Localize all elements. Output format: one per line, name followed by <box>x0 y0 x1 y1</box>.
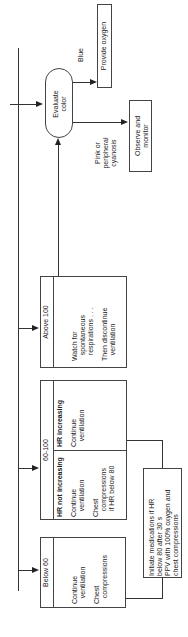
hr-above-100-box: Above 100 Watch for spontaneous respirat… <box>40 276 127 368</box>
blue-label: Blue <box>77 42 87 62</box>
hr-below-60-box: Below 60 Continue ventilation Chest comp… <box>40 537 126 608</box>
arrow-up-icon <box>55 138 61 145</box>
trunk-line <box>18 48 19 590</box>
connector <box>18 590 19 591</box>
arrow-right-icon <box>121 119 128 125</box>
arrow-right-icon <box>36 101 43 107</box>
arrow-right-icon <box>32 567 39 573</box>
above-100-header: Above 100 <box>42 305 49 338</box>
color-label: color <box>60 96 68 111</box>
connector <box>58 143 59 276</box>
60-100-header: 60-100 <box>42 439 49 461</box>
connector <box>73 82 91 83</box>
hr-not-increasing-section: HR not increasing Continue ventilation C… <box>56 451 124 517</box>
connector <box>127 440 162 441</box>
connector <box>162 440 163 468</box>
arrow-right-icon <box>90 79 97 85</box>
hr-60-100-box: 60-100 HR increasing Continue ventilatio… <box>40 380 127 520</box>
provide-oxygen-box: Provide oxygen <box>97 4 112 88</box>
arrow-right-icon <box>32 325 39 331</box>
pink-label: Pink or peripheral cyanosis <box>94 131 122 175</box>
arrow-right-icon <box>32 465 39 471</box>
connector <box>126 598 162 599</box>
below-60-header: Below 60 <box>42 558 49 587</box>
evaluate-color-node: Evaluate color <box>45 68 73 138</box>
medications-box: Initiate medications if HR below 80 afte… <box>143 468 182 578</box>
observe-monitor-box: Observe and monitor <box>129 100 152 172</box>
provide-oxygen-label: Provide oxygen <box>100 22 107 70</box>
connector <box>10 104 37 105</box>
hr-increasing-section: HR increasing Continue ventilation <box>56 381 124 447</box>
connector <box>162 578 163 599</box>
connector <box>73 122 122 123</box>
evaluate-label: Evaluate <box>52 90 60 117</box>
